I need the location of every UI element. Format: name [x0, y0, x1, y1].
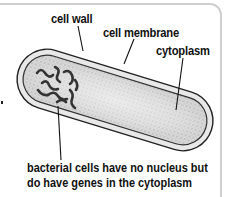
cell-membrane-label: cell membrane	[103, 25, 179, 40]
caption: bacterial cells have no nucleus but do h…	[27, 160, 208, 190]
caption-line-1: bacterial cells have no nucleus but	[27, 160, 208, 175]
caption-line-2: do have genes in the cytoplasm	[27, 175, 208, 190]
cell-wall-label: cell wall	[51, 11, 92, 26]
cytoplasm-label: cytoplasm	[156, 43, 210, 58]
cytoplasm	[17, 49, 213, 150]
bacterium	[10, 42, 221, 158]
cell-membrane-pointer	[124, 39, 134, 64]
cell-wall-pointer	[78, 26, 83, 51]
